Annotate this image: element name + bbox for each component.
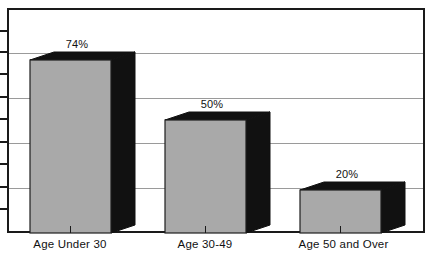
x-axis-category-label-age-30-49: Age 30-49: [155, 238, 255, 250]
bar-3d-shape: [30, 52, 135, 233]
y-axis-tick: [0, 208, 7, 210]
bar-3d-shape: [165, 112, 270, 233]
bar-value-label-age-under-30: 74%: [47, 38, 107, 50]
y-axis-tick: [0, 141, 7, 143]
bar-3d-shape: [300, 182, 405, 233]
bar-age-30-49[interactable]: [165, 112, 270, 233]
y-axis-tick: [0, 163, 7, 165]
y-axis-tick: [0, 96, 7, 98]
x-axis-tick: [70, 226, 71, 233]
y-axis-tick: [0, 118, 7, 120]
y-axis-tick: [0, 73, 7, 75]
y-axis-tick: [0, 51, 7, 53]
x-axis-tick: [340, 226, 341, 233]
bar-age-50-and-over[interactable]: [300, 182, 405, 233]
x-axis-category-label-age-under-30: Age Under 30: [15, 238, 125, 250]
y-axis-tick: [0, 30, 7, 32]
x-axis-tick: [205, 226, 206, 233]
bar-value-label-age-30-49: 50%: [182, 98, 242, 110]
bar-value-label-age-50-and-over: 20%: [317, 168, 377, 180]
bar-chart: 74% 50% 20% Age Under 30 Age 30-49 Age 5…: [0, 0, 430, 257]
bar-age-under-30[interactable]: [30, 52, 135, 233]
y-axis-tick: [0, 186, 7, 188]
x-axis-category-label-age-50-and-over: Age 50 and Over: [281, 238, 406, 250]
